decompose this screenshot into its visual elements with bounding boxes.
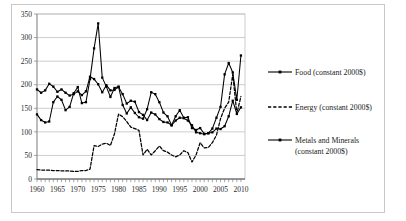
series-0-marker-2006 [223, 125, 225, 127]
series-0-marker-1975 [97, 83, 99, 85]
series-2-marker-1963 [48, 120, 50, 122]
series-0-marker-1960 [36, 88, 38, 90]
series-2-marker-1966 [60, 99, 62, 101]
series-2-marker-1978 [109, 96, 111, 98]
series-2-marker-1983 [130, 106, 132, 108]
series-2-marker-1982 [126, 112, 128, 114]
series-2-marker-1962 [44, 121, 46, 123]
series-2-marker-1998 [191, 127, 193, 129]
series-2-marker-2005 [219, 106, 221, 108]
series-0-marker-1999 [195, 131, 197, 133]
legend-label-0: Food (constant 2000$) [295, 68, 366, 77]
series-2-marker-1976 [101, 76, 103, 78]
series-2-marker-1977 [105, 85, 107, 87]
series-2-marker-1992 [166, 115, 168, 117]
xtick-label-1965: 1965 [50, 185, 65, 194]
series-2-marker-1986 [142, 118, 144, 120]
series-2-marker-1960 [36, 113, 38, 115]
series-2-marker-2010 [240, 54, 242, 56]
series-0-marker-1965 [56, 91, 58, 93]
legend-label-2: Metals and Minerals [295, 136, 359, 145]
series-0-marker-1994 [175, 119, 177, 121]
series-2-marker-1973 [89, 78, 91, 80]
series-2-marker-2007 [228, 62, 230, 64]
series-0-marker-1962 [44, 89, 46, 91]
series-2-marker-1996 [183, 117, 185, 119]
series-2-marker-1993 [170, 124, 172, 126]
series-0-marker-1991 [162, 121, 164, 123]
legend-marker-0 [279, 71, 282, 74]
chart-canvas: 0501001502002503003501960196519701975198… [0, 0, 406, 221]
series-2-marker-1994 [175, 115, 177, 117]
series-2-marker-1965 [56, 95, 58, 97]
xtick-label-1990: 1990 [152, 185, 167, 194]
series-2-marker-2001 [203, 133, 205, 135]
xtick-label-1995: 1995 [172, 185, 187, 194]
series-2-marker-1997 [187, 116, 189, 118]
xtick-label-1975: 1975 [91, 185, 106, 194]
series-2-marker-1987 [146, 108, 148, 110]
series-2-marker-1985 [138, 116, 140, 118]
legend-label-1: Energy (constant 2000$) [295, 103, 372, 112]
series-2-marker-1975 [97, 22, 99, 24]
ytick-label-300: 300 [21, 33, 33, 42]
series-2-marker-1979 [113, 87, 115, 89]
series-2-marker-2006 [223, 73, 225, 75]
series-0-marker-1985 [138, 111, 140, 113]
series-0-marker-1974 [93, 78, 95, 80]
legend: Food (constant 2000$)Energy (constant 20… [268, 68, 372, 156]
series-2-marker-2008 [232, 71, 234, 73]
series-0-marker-2000 [199, 132, 201, 134]
series-0-marker-2010 [240, 106, 242, 108]
series-2-marker-1972 [85, 101, 87, 103]
series-2-marker-1984 [134, 112, 136, 114]
series-0-marker-2005 [219, 128, 221, 130]
xtick-label-1960: 1960 [30, 185, 45, 194]
xtick-label-2005: 2005 [213, 185, 228, 194]
series-0-marker-1972 [85, 90, 87, 92]
series-0-marker-1983 [130, 100, 132, 102]
ytick-label-350: 350 [21, 10, 33, 19]
series-0-marker-1995 [179, 117, 181, 119]
series-2-marker-1967 [64, 109, 66, 111]
series-2-marker-1991 [162, 111, 164, 113]
series-2-marker-2004 [215, 117, 217, 119]
series-2-marker-1961 [40, 119, 42, 121]
series-0-marker-1967 [64, 92, 66, 94]
series-2-marker-1971 [81, 102, 83, 104]
series-2-marker-1980 [117, 85, 119, 87]
series-0-marker-1968 [68, 94, 70, 96]
xtick-label-2010: 2010 [233, 185, 248, 194]
series-2-marker-1999 [195, 129, 197, 131]
ytick-label-250: 250 [21, 57, 33, 66]
series-0-marker-2008 [232, 100, 234, 102]
series-2-marker-1968 [68, 106, 70, 108]
ytick-label-50: 50 [25, 151, 33, 160]
series-2-marker-2003 [211, 127, 213, 129]
xtick-label-1980: 1980 [111, 185, 126, 194]
series-2-marker-1990 [158, 101, 160, 103]
series-0-marker-2007 [228, 115, 230, 117]
series-2-marker-1989 [154, 93, 156, 95]
series-0-marker-1964 [52, 85, 54, 87]
legend-label-2-line2: (constant 2000$) [295, 147, 348, 156]
series-0-marker-1987 [146, 119, 148, 121]
plot-area-border [37, 14, 245, 179]
series-0-marker-1989 [154, 113, 156, 115]
series-2-marker-2009 [236, 99, 238, 101]
series-2-marker-2000 [199, 127, 201, 129]
series-2-marker-1970 [77, 86, 79, 88]
series-0-marker-1984 [134, 101, 136, 103]
series-0-marker-1992 [166, 121, 168, 123]
xtick-label-1970: 1970 [70, 185, 85, 194]
series-2-marker-1974 [93, 47, 95, 49]
xtick-label-1985: 1985 [131, 185, 146, 194]
series-0-marker-1966 [60, 88, 62, 90]
series-2-marker-1995 [179, 109, 181, 111]
series-2-marker-1988 [150, 91, 152, 93]
series-0-marker-1978 [109, 89, 111, 91]
series-0-marker-1961 [40, 92, 42, 94]
legend-marker-2 [279, 139, 282, 142]
series-0-marker-1976 [101, 91, 103, 93]
ytick-label-200: 200 [21, 80, 33, 89]
